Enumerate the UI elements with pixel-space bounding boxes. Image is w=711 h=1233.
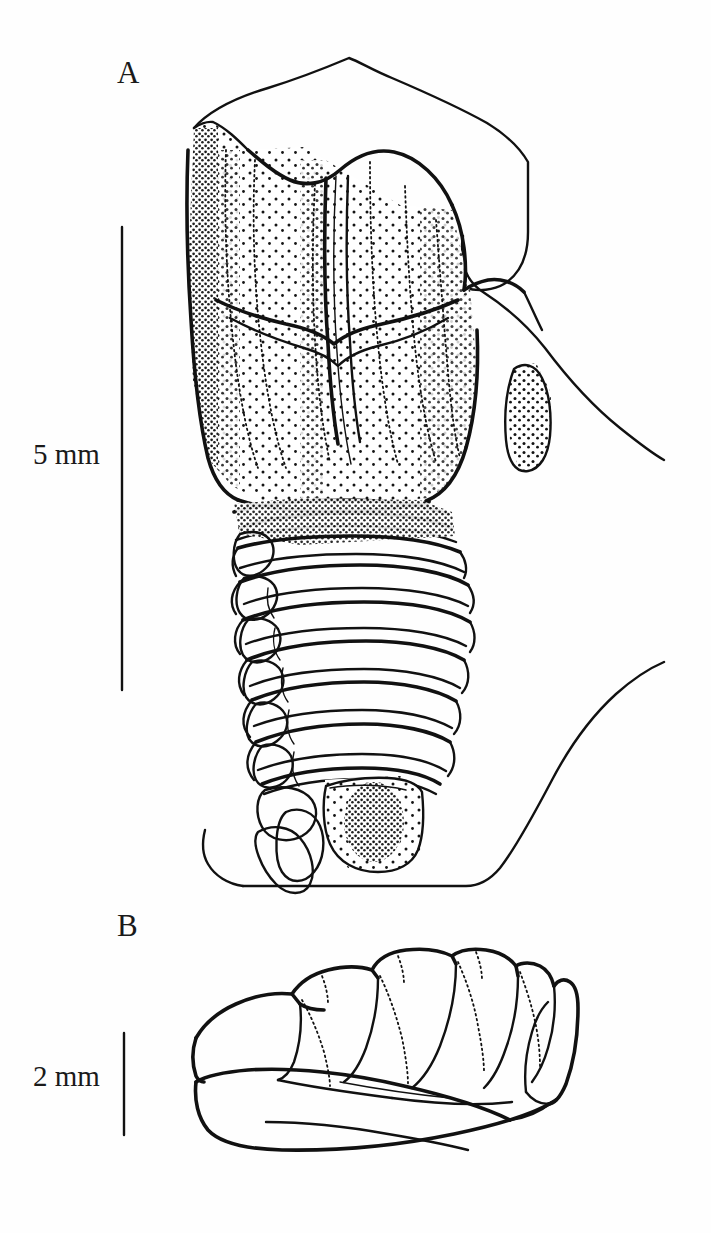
terminal-appendage [276,810,323,881]
lateral-segment-3 [372,949,456,1088]
ventral-margin-b [196,1069,557,1150]
lateral-segment-6 [525,980,578,1104]
detached-sclerite [505,363,551,471]
lateral-lobes [234,532,316,893]
lateral-segment-2 [292,967,378,1086]
terminal-segment [320,776,430,876]
panel-a-drawing [187,58,664,893]
abdominal-segments [230,498,475,794]
drawing-canvas [0,0,711,1233]
lateral-segment-4 [452,949,518,1088]
illustration-plate: A B 5 mm 2 mm [0,0,711,1233]
panel-b-drawing [193,949,578,1150]
